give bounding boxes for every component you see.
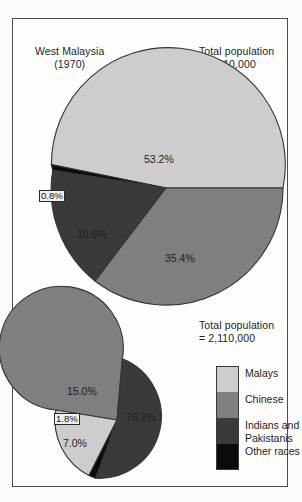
pie-slice-chinese — [0, 286, 123, 420]
legend-item-malays: Malays — [216, 366, 296, 392]
sg-label-other-races: 1.8% — [54, 413, 80, 425]
legend-swatch-indians-pakistanis — [216, 418, 239, 444]
figure-frame: West Malaysia(1970) Total population= 8,… — [12, 18, 288, 487]
singapore-total-value: = 2,110,000 — [199, 332, 274, 345]
singapore-total-population: Total population= 2,110,000 — [199, 319, 274, 344]
legend-label-malays: Malays — [239, 366, 278, 380]
legend-swatch-malays — [216, 366, 239, 392]
west-malaysia-title: West Malaysia(1970) — [35, 45, 104, 70]
singapore-total-label: Total population — [199, 319, 274, 331]
legend-item-indians-pakistanis: Indians and Pakistanis — [216, 418, 296, 444]
legend-item-chinese: Chinese — [216, 392, 296, 418]
legend-item-other-races: Other races — [216, 444, 296, 470]
west-malaysia-pie-chart — [47, 69, 285, 307]
wm-label-indians-pakistanis: 10.6% — [77, 228, 107, 240]
sg-label-chinese: 76.2% — [126, 411, 156, 423]
sg-label-malays: 15.0% — [67, 385, 97, 397]
legend-label-indians-pakistanis: Indians and Pakistanis — [239, 418, 299, 444]
figure-page: West Malaysia(1970) Total population= 8,… — [0, 0, 302, 502]
legend-swatch-other-races — [216, 444, 239, 470]
west-malaysia-title-line1: West Malaysia — [35, 45, 104, 57]
wm-label-chinese: 35.4% — [165, 252, 195, 264]
legend: Malays Chinese Indians and Pakistanis Ot… — [216, 366, 296, 470]
legend-swatch-chinese — [216, 392, 239, 418]
wm-label-other-races: 0.8% — [39, 190, 65, 202]
legend-label-other-races: Other races — [239, 444, 300, 458]
wm-label-malays: 53.2% — [144, 153, 174, 165]
sg-label-indians-pakistanis: 7.0% — [63, 437, 87, 449]
legend-label-chinese: Chinese — [239, 392, 284, 406]
pie-slice-malays — [51, 48, 285, 188]
